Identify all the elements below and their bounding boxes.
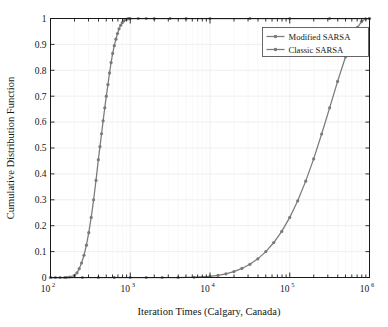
data-point (328, 106, 331, 109)
data-point (97, 158, 100, 161)
data-point (75, 271, 78, 274)
data-point (100, 132, 103, 135)
data-point (80, 261, 83, 264)
legend-marker-icon (274, 48, 278, 52)
legend-marker-icon (274, 35, 278, 39)
data-point (288, 216, 291, 219)
y-tick-label: 0.2 (35, 221, 47, 231)
data-point (87, 231, 90, 234)
data-point (304, 180, 307, 183)
data-point (94, 179, 97, 182)
y-tick-label: 0.7 (35, 92, 47, 102)
data-point (108, 71, 111, 74)
data-point (240, 267, 243, 270)
x-tick-label: 10 (121, 284, 131, 294)
x-tick-label: 10 (280, 284, 290, 294)
data-point (256, 257, 259, 260)
x-tick-exponent: 2 (52, 281, 55, 288)
data-point (272, 241, 275, 244)
data-point (102, 119, 105, 122)
data-point (336, 80, 339, 83)
chart-canvas: 00.10.20.30.40.50.60.70.80.9110210310410… (0, 0, 388, 327)
data-point (320, 132, 323, 135)
data-point (117, 27, 120, 30)
y-tick-label: 0.8 (35, 66, 47, 76)
legend-label: Modified SARSA (289, 32, 352, 42)
data-point (264, 250, 267, 253)
data-point (116, 32, 119, 35)
y-tick-label: 0.6 (35, 117, 47, 127)
data-point (114, 38, 117, 41)
x-tick-exponent: 3 (132, 281, 135, 288)
x-tick-label: 10 (360, 284, 370, 294)
data-point (92, 198, 95, 201)
data-point (109, 61, 112, 64)
legend-label: Classic SARSA (289, 45, 344, 55)
x-tick-label: 10 (41, 284, 51, 294)
y-tick-label: 0.4 (35, 169, 47, 179)
data-point (296, 199, 299, 202)
y-tick-label: 0.3 (35, 195, 47, 205)
data-point (85, 244, 88, 247)
data-point (82, 254, 85, 257)
data-point (280, 230, 283, 233)
data-point (113, 44, 116, 47)
data-point (90, 216, 93, 219)
y-tick-label: 0.9 (35, 40, 47, 50)
y-axis-title: Cumulative Distribution Function (5, 76, 16, 219)
y-tick-label: 0 (42, 273, 47, 283)
data-point (78, 267, 81, 270)
y-tick-label: 0.1 (35, 247, 47, 257)
data-point (216, 274, 219, 277)
data-point (232, 270, 235, 273)
x-axis-title: Iteration Times (Calgary, Canada) (138, 306, 281, 318)
data-point (312, 157, 315, 160)
chart-legend: Modified SARSAClassic SARSA (263, 28, 369, 57)
x-tick-label: 10 (200, 284, 210, 294)
x-tick-exponent: 5 (291, 281, 294, 288)
cdf-chart-figure: 00.10.20.30.40.50.60.70.80.9110210310410… (0, 0, 388, 327)
data-point (98, 145, 101, 148)
data-point (111, 52, 114, 55)
y-tick-label: 0.5 (35, 143, 47, 153)
data-point (224, 272, 227, 275)
y-tick-label: 1 (42, 14, 47, 24)
data-point (105, 95, 108, 98)
data-point (106, 83, 109, 86)
data-point (248, 263, 251, 266)
data-point (103, 106, 106, 109)
